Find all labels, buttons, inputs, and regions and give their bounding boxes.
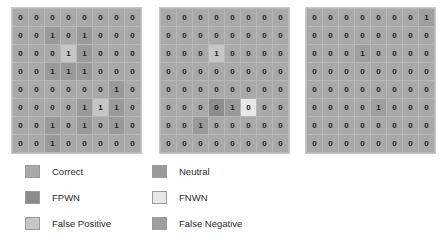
heatmap-row: 00000000 [307, 27, 435, 45]
heatmap-cell: 0 [45, 99, 61, 117]
legend-label: FPWN [52, 192, 80, 203]
heatmap-cell: 0 [177, 81, 193, 99]
heatmap-cell: 0 [387, 63, 403, 81]
heatmap-cell: 0 [403, 117, 419, 135]
heatmap-cell: 0 [45, 45, 61, 63]
heatmap-table: 0000000000101000000110000011100000000010… [12, 8, 141, 153]
heatmap-cell: 0 [109, 135, 125, 153]
heatmap-row: 00000000 [161, 27, 289, 45]
heatmap-cell: 0 [355, 99, 371, 117]
heatmap-row: 00101010 [13, 117, 141, 135]
heatmap-cell: 0 [125, 9, 141, 27]
heatmap-cell: 0 [161, 9, 177, 27]
heatmap-cell: 0 [161, 27, 177, 45]
heatmap-row: 00001000 [161, 99, 289, 117]
heatmap-row: 00001000 [307, 99, 435, 117]
heatmap-cell: 1 [61, 45, 77, 63]
heatmap-cell: 0 [419, 45, 435, 63]
heatmap-cell: 0 [257, 63, 273, 81]
heatmap-cell: 0 [13, 81, 29, 99]
heatmap-cell: 0 [225, 45, 241, 63]
legend-item: FNWN [152, 184, 312, 210]
legend-item: Neutral [152, 158, 312, 184]
heatmap-row: 00101000 [13, 27, 141, 45]
legend-swatch-false-negative-icon [152, 217, 167, 230]
heatmap-cell: 0 [161, 45, 177, 63]
heatmap-cell: 0 [93, 117, 109, 135]
legend-column-left: CorrectFPWNFalse Positive [25, 158, 165, 236]
heatmap-cell: 0 [125, 45, 141, 63]
heatmap-row: 00000000 [307, 81, 435, 99]
heatmap-cell: 0 [109, 63, 125, 81]
heatmap-cell: 0 [93, 27, 109, 45]
heatmap-row: 00000000 [161, 9, 289, 27]
heatmap-panels: 0000000000101000000110000011100000000010… [0, 0, 444, 156]
heatmap-cell: 0 [193, 45, 209, 63]
heatmap-cell: 0 [29, 9, 45, 27]
heatmap-cell: 0 [257, 117, 273, 135]
heatmap-cell: 1 [77, 117, 93, 135]
heatmap-cell: 0 [29, 117, 45, 135]
heatmap-cell: 0 [307, 135, 323, 153]
heatmap-cell: 1 [93, 99, 109, 117]
heatmap-cell: 0 [225, 117, 241, 135]
heatmap-cell: 0 [419, 81, 435, 99]
heatmap-row: 00000000 [307, 135, 435, 153]
heatmap-cell: 0 [61, 81, 77, 99]
heatmap-cell: 1 [45, 63, 61, 81]
heatmap-cell: 1 [61, 63, 77, 81]
heatmap-cell: 0 [241, 99, 257, 117]
heatmap-cell: 0 [241, 27, 257, 45]
heatmap-cell: 0 [307, 81, 323, 99]
heatmap-cell: 0 [225, 63, 241, 81]
heatmap-cell: 0 [403, 27, 419, 45]
heatmap-cell: 0 [387, 99, 403, 117]
heatmap-row: 00000000 [307, 117, 435, 135]
heatmap-cell: 0 [371, 45, 387, 63]
heatmap-cell: 0 [177, 45, 193, 63]
heatmap-cell: 0 [323, 81, 339, 99]
heatmap-cell: 0 [403, 9, 419, 27]
heatmap-row: 00000000 [161, 63, 289, 81]
heatmap-cell: 1 [371, 99, 387, 117]
heatmap-cell: 0 [13, 117, 29, 135]
heatmap-cell: 0 [323, 99, 339, 117]
heatmap-cell: 0 [209, 9, 225, 27]
heatmap-cell: 0 [387, 81, 403, 99]
heatmap-cell: 1 [355, 45, 371, 63]
heatmap-table: 0000000100000000000100000000000000000000… [306, 8, 435, 153]
heatmap-cell: 0 [273, 81, 289, 99]
heatmap-cell: 0 [13, 27, 29, 45]
heatmap-cell: 0 [29, 45, 45, 63]
heatmap-cell: 0 [45, 81, 61, 99]
heatmap-cell: 0 [323, 45, 339, 63]
heatmap-row: 00000001 [307, 9, 435, 27]
heatmap-cell: 0 [241, 63, 257, 81]
heatmap-cell: 0 [257, 9, 273, 27]
heatmap-cell: 0 [403, 81, 419, 99]
heatmap-cell: 0 [177, 9, 193, 27]
heatmap-cell: 0 [177, 99, 193, 117]
heatmap-cell: 0 [419, 27, 435, 45]
heatmap-cell: 0 [177, 117, 193, 135]
heatmap-row: 00001110 [13, 99, 141, 117]
heatmap-cell: 0 [29, 81, 45, 99]
heatmap-cell: 0 [209, 81, 225, 99]
heatmap-cell: 0 [61, 135, 77, 153]
heatmap-cell: 0 [77, 81, 93, 99]
heatmap-cell: 0 [93, 81, 109, 99]
heatmap-cell: 0 [209, 117, 225, 135]
heatmap-cell: 0 [273, 117, 289, 135]
heatmap-row: 00010000 [307, 45, 435, 63]
heatmap-cell: 0 [307, 45, 323, 63]
heatmap-cell: 0 [125, 63, 141, 81]
heatmap-cell: 0 [77, 135, 93, 153]
heatmap-cell: 0 [387, 117, 403, 135]
heatmap-row: 00000000 [13, 9, 141, 27]
legend-swatch-false-positive-icon [25, 217, 40, 230]
heatmap-cell: 0 [323, 27, 339, 45]
heatmap-cell: 0 [355, 27, 371, 45]
heatmap-cell: 0 [355, 81, 371, 99]
heatmap-cell: 0 [125, 81, 141, 99]
legend-label: Correct [52, 166, 83, 177]
